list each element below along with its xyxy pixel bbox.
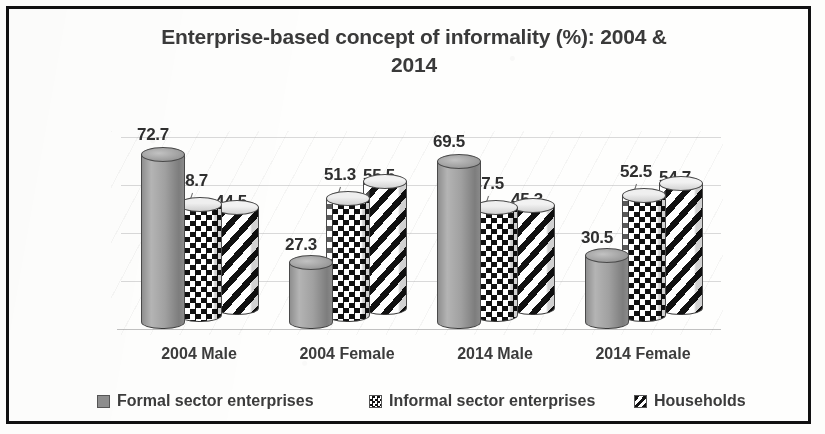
legend-item-checkerboard[interactable]: Informal sector enterprises: [369, 392, 595, 410]
bar-cap: [363, 174, 407, 189]
chart-title: Enterprise-based concept of informality …: [69, 23, 759, 79]
x-axis-category-label: 2014 Male: [457, 345, 533, 363]
chart-title-line-2: 2014: [391, 53, 437, 76]
chart-frame: Enterprise-based concept of informality …: [6, 6, 811, 424]
bar-solid-grey: [585, 255, 629, 329]
legend-item-solid-grey[interactable]: Formal sector enterprises: [97, 392, 314, 410]
data-label: 51.3: [324, 165, 356, 185]
bar-solid-grey: [289, 262, 333, 329]
x-axis-category-label: 2004 Female: [299, 345, 394, 363]
x-axis-category-label: 2014 Female: [595, 345, 690, 363]
bar-cap: [289, 255, 333, 270]
data-label: 72.7: [137, 125, 169, 145]
bar-cap: [659, 176, 703, 191]
bar-group: [423, 137, 571, 329]
chart-title-line-1: Enterprise-based concept of informality …: [161, 25, 667, 48]
legend-item-diagonal-stripes[interactable]: Households: [634, 392, 746, 410]
bar-cap: [326, 191, 370, 206]
x-axis-line: [117, 329, 721, 330]
x-axis-categories: 2004 Male2004 Female2014 Male2014 Female: [127, 345, 719, 371]
data-label: 30.5: [581, 228, 613, 248]
chart-legend: Formal sector enterprisesInformal sector…: [69, 392, 769, 418]
bar-cap: [585, 248, 629, 263]
legend-label: Formal sector enterprises: [117, 392, 314, 410]
legend-swatch-icon: [634, 395, 647, 408]
bar-group: [127, 137, 275, 329]
bar-solid-grey: [141, 154, 185, 329]
x-axis-category-label: 2004 Male: [161, 345, 237, 363]
bar-cap: [437, 154, 481, 169]
legend-swatch-icon: [369, 395, 382, 408]
bar-cap: [622, 188, 666, 203]
plot-area: 0.020.040.060.080.0 72.748.744.527.351.3…: [127, 137, 719, 329]
legend-swatch-icon: [97, 395, 110, 408]
legend-label: Households: [654, 392, 746, 410]
bar-solid-grey: [437, 161, 481, 329]
legend-label: Informal sector enterprises: [389, 392, 595, 410]
data-label: 69.5: [433, 132, 465, 152]
bar-cap: [141, 147, 185, 162]
data-label: 27.3: [285, 235, 317, 255]
data-label: 52.5: [620, 162, 652, 182]
